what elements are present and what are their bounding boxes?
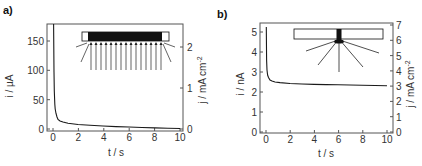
y2-tick-label: 4 [396,66,402,77]
y2-tick-label: 2 [396,96,402,107]
panel-a: a) 0 50 100 150 i / µA 0 1 2 j / mA cm-2 [3,4,208,158]
y-tick-label: 50 [33,95,45,106]
panel-b-x-axis: 0 2 4 6 8 10 t / s [263,130,393,159]
y-tick-label: 0 [38,124,44,135]
x-tick-label: 6 [126,132,132,143]
panel-a-inset-electrode-array [76,32,175,70]
y2-tick-label: 1 [396,112,402,123]
panel-b-x-title: t / s [318,148,334,159]
x-tick-label: 0 [50,132,56,143]
x-tick-label: 6 [336,134,342,145]
y2-tick-label: 0 [396,127,402,138]
y2-tick-label: 7 [396,20,402,31]
x-tick-label: 10 [174,132,186,143]
figure: a) 0 50 100 150 i / µA 0 1 2 j / mA cm-2 [0,0,422,166]
panel-a-y2-title: j / mA cm-2 [196,56,208,104]
panel-b-inset-microelectrode [294,29,383,72]
panel-b-frame [260,23,393,133]
panel-a-x-axis: 0 2 4 6 8 10 t / s [50,128,186,158]
x-tick-label: 2 [76,132,82,143]
y2-tick-label: 0 [187,124,193,135]
panel-a-y2-axis: 0 1 2 j / mA cm-2 [180,42,208,135]
y-tick-label: 1 [251,107,257,118]
x-tick-label: 2 [287,134,293,145]
y-tick-label: 100 [27,65,44,76]
panel-a-y-title: i / µA [4,74,15,97]
panel-b-y-axis: 0 1 2 3 4 5 i / nA [235,27,263,138]
panel-a-y-axis: 0 50 100 150 i / µA [4,36,50,135]
y-tick-label: 150 [27,36,44,47]
panel-a-x-title: t / s [108,147,124,158]
y-tick-label: 5 [251,27,257,38]
y-tick-label: 3 [251,67,257,78]
y2-tick-label: 6 [396,35,402,46]
x-tick-label: 4 [312,134,318,145]
y2-tick-label: 3 [396,81,402,92]
y-tick-label: 2 [251,87,257,98]
panel-b-y2-title: j / mA cm-2 [404,60,416,108]
y-tick-label: 0 [251,127,257,138]
x-tick-label: 4 [101,132,107,143]
panel-b-y2-axis: 0 1 2 3 4 5 6 7 j / mA cm-2 [390,20,416,138]
x-tick-label: 8 [360,134,366,145]
panel-b: b) 0 1 2 3 4 5 i / nA [217,8,416,159]
panel-a-label: a) [3,4,13,16]
panel-b-y-title: i / nA [235,72,246,95]
x-tick-label: 10 [381,134,393,145]
x-tick-label: 8 [152,132,158,143]
y-tick-label: 4 [251,47,257,58]
y2-tick-label: 5 [396,51,402,62]
y2-tick-label: 1 [187,83,193,94]
y2-tick-label: 2 [187,42,193,53]
panel-b-label: b) [217,8,228,20]
x-tick-label: 0 [263,134,269,145]
